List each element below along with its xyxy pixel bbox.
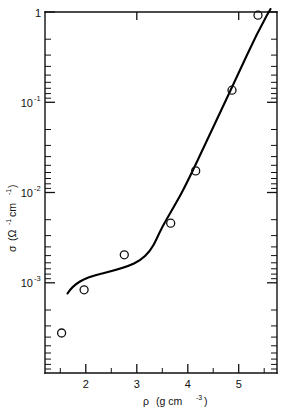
y-tick-label-1e-2-exponent: -2 bbox=[34, 184, 41, 193]
fitted-curve bbox=[68, 9, 271, 294]
data-point-marker bbox=[120, 251, 128, 259]
x-axis-title-units: (g cm bbox=[156, 395, 183, 407]
x-axis-bottom-ticks bbox=[60, 364, 264, 373]
y-tick-label-1e-3-mantissa: 10 bbox=[21, 277, 33, 289]
y-tick-label-1e-1-mantissa: 10 bbox=[21, 97, 33, 109]
fitted-curve-group bbox=[68, 9, 271, 294]
data-point-marker bbox=[80, 286, 88, 294]
x-axis-title-units-exponent: -3 bbox=[196, 394, 202, 401]
conductivity-vs-density-plot: 1 10 -1 10 -2 10 -3 2 3 4 5 ρ (g cm -3 )… bbox=[0, 0, 294, 414]
x-axis-top-ticks bbox=[137, 12, 239, 20]
y-axis-title-close: ) bbox=[6, 185, 18, 189]
y-tick-label-1e-2-mantissa: 10 bbox=[21, 187, 33, 199]
figure-container: 1 10 -1 10 -2 10 -3 2 3 4 5 ρ (g cm -3 )… bbox=[0, 0, 294, 414]
y-axis-title-exponent-1: -1 bbox=[5, 219, 12, 225]
x-axis-title-symbol: ρ bbox=[143, 395, 149, 407]
y-axis-title-symbol: σ bbox=[6, 245, 18, 252]
y-axis-title-open: (Ω bbox=[6, 230, 18, 241]
x-tick-label-5: 5 bbox=[236, 378, 242, 390]
y-tick-label-1e-1-exponent: -1 bbox=[34, 94, 41, 103]
data-point-marker bbox=[167, 219, 175, 227]
x-axis-title-units-close: ) bbox=[204, 395, 208, 407]
y-axis-left-ticks bbox=[45, 12, 55, 369]
data-point-marker bbox=[58, 329, 66, 337]
y-axis-title-mid: cm bbox=[6, 203, 18, 217]
y-axis-tick-labels: 1 10 -1 10 -2 10 -3 bbox=[21, 7, 41, 289]
x-tick-label-4: 4 bbox=[185, 378, 191, 390]
x-tick-label-3: 3 bbox=[134, 378, 140, 390]
data-markers-group bbox=[58, 11, 262, 337]
x-axis-title: ρ (g cm -3 ) bbox=[143, 394, 208, 407]
y-axis-title-exponent-2: -1 bbox=[5, 189, 12, 195]
y-tick-label-1e-3-exponent: -3 bbox=[34, 274, 41, 283]
y-tick-label-1: 1 bbox=[35, 7, 41, 19]
x-axis-tick-labels: 2 3 4 5 bbox=[83, 378, 242, 390]
x-tick-label-2: 2 bbox=[83, 378, 89, 390]
y-axis-right-ticks bbox=[267, 12, 277, 369]
y-axis-title: σ (Ω -1 cm -1 ) bbox=[5, 185, 18, 253]
